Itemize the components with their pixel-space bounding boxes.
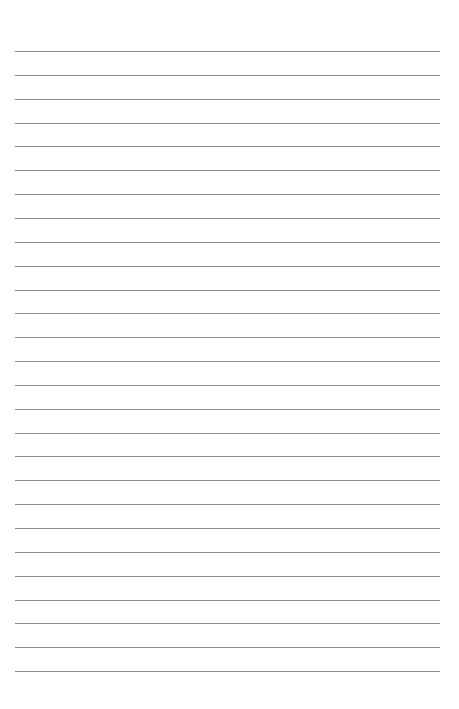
ruled-line	[15, 313, 440, 314]
ruled-line	[15, 671, 440, 672]
ruled-line	[15, 600, 440, 601]
ruled-line	[15, 480, 440, 481]
ruled-line	[15, 361, 440, 362]
ruled-line	[15, 528, 440, 529]
ruled-line	[15, 194, 440, 195]
lined-paper-page	[0, 0, 459, 709]
ruled-line	[15, 647, 440, 648]
ruled-line	[15, 409, 440, 410]
ruled-line	[15, 504, 440, 505]
ruled-line	[15, 433, 440, 434]
ruled-line	[15, 146, 440, 147]
ruled-line	[15, 99, 440, 100]
ruled-line	[15, 623, 440, 624]
ruled-line	[15, 242, 440, 243]
ruled-line	[15, 337, 440, 338]
ruled-line	[15, 170, 440, 171]
ruled-line	[15, 552, 440, 553]
ruled-line	[15, 123, 440, 124]
ruled-line	[15, 218, 440, 219]
ruled-line	[15, 51, 440, 52]
ruled-line	[15, 385, 440, 386]
ruled-line	[15, 456, 440, 457]
ruled-line	[15, 576, 440, 577]
ruled-line	[15, 75, 440, 76]
ruled-line	[15, 290, 440, 291]
ruled-line	[15, 266, 440, 267]
